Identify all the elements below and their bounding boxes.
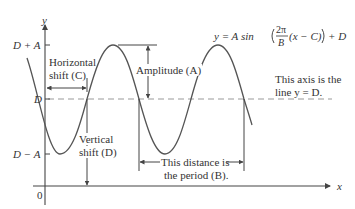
origin-label: 0 — [37, 189, 43, 201]
tick-label-d: D — [34, 93, 42, 105]
period-label-line2: the period (B). — [164, 169, 228, 181]
horizontal-shift-label-line2: shift (C) — [49, 69, 86, 81]
vertical-shift-label-line1: Vertical — [79, 133, 113, 145]
equation-fraction-numerator: 2π — [276, 24, 286, 36]
period-label-line1: This distance is — [161, 156, 229, 168]
equation-lhs-text: y = A sin — [214, 30, 254, 42]
x-axis-label: x — [337, 180, 342, 192]
vertical-shift-label-line2: shift (D) — [79, 146, 117, 158]
equation-right-paren — [322, 29, 324, 43]
equation-inner: (x − C) — [289, 30, 321, 42]
equation-lhs: y = A sin — [214, 30, 254, 42]
y-axis-label: y — [42, 14, 47, 26]
amplitude-label: Amplitude (A) — [135, 64, 202, 76]
equation-left-paren — [272, 29, 274, 43]
equation-rhs: + D — [328, 30, 346, 42]
tick-label-d-minus-a: D − A — [13, 148, 40, 160]
equation-fraction-denominator: B — [278, 37, 284, 49]
horizontal-shift-label-line1: Horizontal — [49, 56, 96, 68]
tick-label-d-plus-a: D + A — [13, 39, 40, 51]
axis-note-line2: line y = D. — [275, 86, 322, 98]
axis-note-line1: This axis is the — [275, 73, 341, 85]
